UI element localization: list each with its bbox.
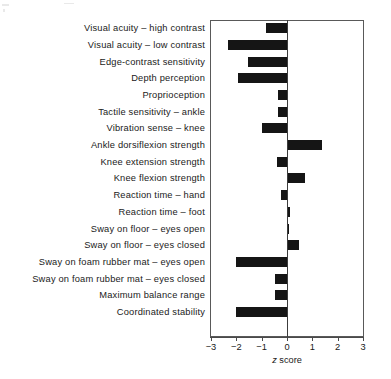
bar-row-label: Sway on foam rubber mat – eyes open [39, 257, 205, 267]
x-axis-tick-label: −3 [199, 342, 223, 353]
x-axis-tick [211, 337, 212, 341]
x-axis-tick-label: 0 [275, 342, 299, 353]
bar-row-label: Ankle dorsiflexion strength [91, 140, 205, 150]
bar-row-label: Sway on floor – eyes open [91, 224, 205, 234]
bar-row-label: Maximum balance range [99, 290, 205, 300]
x-axis-title: z score [210, 355, 364, 366]
x-axis-tick-label: 2 [326, 342, 350, 353]
bar-row-label: Proprioception [142, 90, 205, 100]
x-axis-title-rest: score [277, 355, 302, 365]
bar-row-label: Knee extension strength [100, 157, 205, 167]
bar-row-label: Sway on foam rubber mat – eyes closed [32, 274, 205, 284]
scan-artifact [64, 3, 74, 4]
x-axis-tick [287, 337, 288, 341]
chart-figure: Visual acuity – high contrastVisual acui… [0, 0, 391, 379]
bar-row-label: Reaction time – hand [113, 190, 205, 200]
bar-row-label: Tactile sensitivity – ankle [98, 107, 205, 117]
x-axis-tick [262, 337, 263, 341]
x-axis-tick-label: 1 [300, 342, 324, 353]
x-axis-tick-label: −1 [250, 342, 274, 353]
scan-artifact [3, 9, 5, 12]
x-axis-tick [338, 337, 339, 341]
bar-row-label: Sway on floor – eyes closed [84, 240, 205, 250]
bar-row-label: Edge-contrast sensitivity [100, 57, 205, 67]
bar-row-label: Visual acuity – high contrast [84, 23, 205, 33]
x-axis-tick-label: −2 [224, 342, 248, 353]
bar-row-label: Reaction time – foot [119, 207, 205, 217]
zero-reference-line [287, 20, 288, 337]
x-axis-tick [236, 337, 237, 341]
bar-row-label: Depth perception [131, 73, 205, 83]
x-axis-tick [312, 337, 313, 341]
x-axis-tick-label: 3 [351, 342, 375, 353]
bar-row-label: Knee flexion strength [114, 173, 205, 183]
bar-row-label: Vibration sense – knee [106, 123, 205, 133]
scan-artifact [2, 4, 9, 6]
x-axis-tick [363, 337, 364, 341]
bar-row-label: Visual acuity – low contrast [88, 40, 205, 50]
bar-row-label: Coordinated stability [117, 307, 205, 317]
